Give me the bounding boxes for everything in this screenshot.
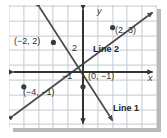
line-1-graph bbox=[40, 8, 113, 121]
coordinate-plane-figure: y x 2 −1 (−2, 2) (2, 3) (−4, −1) (0, −1)… bbox=[0, 0, 167, 138]
point-label-2-3: (2, 3) bbox=[115, 26, 136, 35]
point-label-neg4-neg1: (−4, −1) bbox=[23, 88, 55, 97]
line-1-label: Line 1 bbox=[113, 104, 139, 113]
x-axis-label: x bbox=[148, 74, 153, 83]
y-axis-label: y bbox=[97, 7, 102, 16]
point-label-0-neg1: (0, −1) bbox=[88, 72, 114, 81]
point-marker bbox=[80, 84, 85, 89]
y-tick-label-2: 2 bbox=[72, 44, 77, 53]
y-tick-label-negative-1: −1 bbox=[62, 72, 72, 81]
point-label-neg2-2: (−2, 2) bbox=[14, 37, 40, 46]
line-2-label: Line 2 bbox=[93, 45, 119, 54]
point-marker bbox=[51, 40, 56, 45]
